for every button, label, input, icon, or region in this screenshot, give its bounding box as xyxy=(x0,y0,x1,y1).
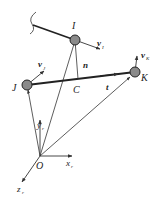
label-axis-x: x xyxy=(65,158,70,168)
label-t: t xyxy=(106,82,109,92)
joint-J-ball xyxy=(22,80,32,90)
label-O: O xyxy=(36,160,43,171)
label-vI-sub: I xyxy=(101,45,104,50)
label-axis-y: y xyxy=(36,120,41,130)
label-axis-x-sub: r xyxy=(71,164,73,169)
kinematics-diagram: I J K C O n t v I v J v K x r y r z r xyxy=(0,0,161,205)
label-axis-z: z xyxy=(16,184,21,194)
jk-rod xyxy=(27,72,135,85)
label-axis-y-sub: r xyxy=(42,126,44,131)
position-K-arrow xyxy=(40,77,130,156)
label-I: I xyxy=(71,20,76,31)
joint-K-ball xyxy=(130,67,140,77)
label-vJ-sub: J xyxy=(43,66,46,71)
normal-n-line xyxy=(75,40,78,79)
label-axis-z-sub: r xyxy=(22,190,24,195)
link-rod xyxy=(33,25,75,40)
position-I-line xyxy=(40,44,74,156)
label-J: J xyxy=(12,82,17,93)
label-n: n xyxy=(83,60,88,70)
label-K: K xyxy=(140,72,149,83)
label-C: C xyxy=(73,84,80,95)
joint-I-ball xyxy=(70,35,80,45)
link-curve xyxy=(30,12,36,34)
label-vK-sub: K xyxy=(145,56,150,61)
